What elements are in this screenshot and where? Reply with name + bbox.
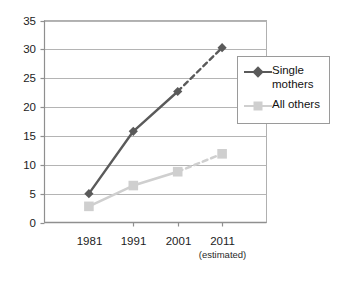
x-axis-tick-sublabel: (estimated) [189,249,257,260]
y-axis-tick-label: 5 [8,188,36,200]
diamond-marker-icon [244,65,272,79]
y-axis-tick-label: 30 [8,43,36,55]
legend-item-label: All others [272,98,320,112]
y-axis-tick-label: 25 [8,72,36,84]
legend: Single mothers All others [237,56,330,124]
square-marker-icon [244,99,272,113]
line-chart: 05101520253035 1981199120012011(estimate… [0,0,348,281]
legend-item-label: Single mothers [272,64,314,91]
y-axis-tick-label: 0 [8,217,36,229]
y-axis-tick-label: 20 [8,101,36,113]
x-axis-tick-label: 2011 [193,235,253,248]
legend-item-all-others: All others [244,98,320,113]
y-axis-tick-label: 10 [8,159,36,171]
plot-border [45,21,267,223]
y-axis-tick-label: 35 [8,15,36,27]
y-axis-tick-label: 15 [8,130,36,142]
legend-item-single-mothers: Single mothers [244,64,314,91]
